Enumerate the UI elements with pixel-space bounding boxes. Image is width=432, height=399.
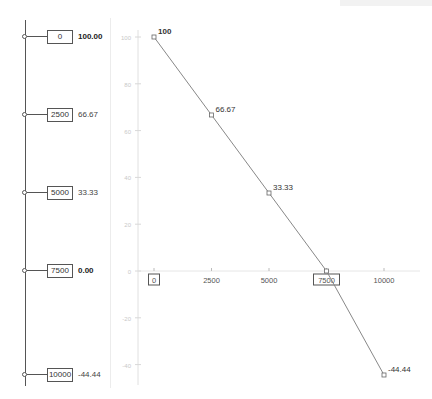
y-tick-label: 0: [128, 269, 132, 275]
x-tick-label: 10000: [374, 276, 395, 285]
y-tick-label: 60: [124, 129, 131, 135]
x-tick-label: 0: [152, 276, 156, 285]
data-marker: [152, 35, 156, 39]
y-tick-label: 40: [124, 175, 131, 181]
data-markers: [152, 35, 386, 377]
line-chart: 100806040200-20-40 025005000750010000 10…: [0, 0, 432, 399]
point-label: -44.44: [388, 365, 411, 374]
y-tick-label: 100: [121, 35, 132, 41]
x-tick-label: 5000: [261, 276, 278, 285]
y-tick-label: 80: [124, 82, 131, 88]
x-tick-label: 2500: [203, 276, 220, 285]
data-marker: [382, 373, 386, 377]
y-tick-label: -20: [122, 316, 131, 322]
y-tick-label: -40: [122, 363, 131, 369]
data-marker: [210, 113, 214, 117]
x-tick-label: 7500: [318, 276, 335, 285]
point-labels: 10066.6733.33-44.44: [158, 27, 411, 374]
point-label: 66.67: [216, 105, 237, 114]
y-tick-label: 20: [124, 222, 131, 228]
series-line: [154, 37, 384, 375]
data-marker: [325, 269, 329, 273]
point-label: 33.33: [273, 183, 294, 192]
data-marker: [267, 191, 271, 195]
point-label: 100: [158, 27, 172, 36]
